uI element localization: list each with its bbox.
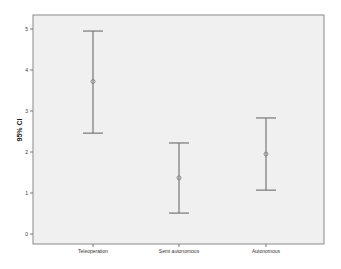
y-tick-label: 2 <box>25 149 28 155</box>
y-tick-label: 1 <box>25 190 28 196</box>
x-axis: TeleoperationSemi autonomousAutonomous <box>78 244 281 254</box>
x-category-label: Semi autonomous <box>159 248 200 254</box>
x-category-label: Autonomous <box>252 248 281 254</box>
y-axis: 012345 <box>25 26 33 237</box>
y-axis-label: 95% CI <box>16 118 23 141</box>
x-category-label: Teleoperation <box>78 248 108 254</box>
y-tick-label: 5 <box>25 26 28 32</box>
y-tick-label: 4 <box>25 67 28 73</box>
y-tick-label: 3 <box>25 108 28 114</box>
y-tick-label: 0 <box>25 231 28 237</box>
error-bar-chart: 012345 TeleoperationSemi autonomousAuton… <box>0 0 341 269</box>
